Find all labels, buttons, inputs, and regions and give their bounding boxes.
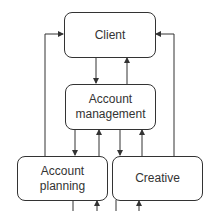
node-label: Client <box>95 28 126 43</box>
node-client: Client <box>64 12 156 58</box>
node-label: Creative <box>135 171 180 186</box>
node-creative: Creative <box>112 156 203 201</box>
node-label: Account management <box>75 92 145 122</box>
edge-account-planning-to-client <box>45 34 63 156</box>
node-label: Account planning <box>40 164 85 194</box>
node-account-planning: Account planning <box>17 156 108 201</box>
node-account-management: Account management <box>65 84 156 130</box>
edge-creative-to-client <box>156 34 174 156</box>
